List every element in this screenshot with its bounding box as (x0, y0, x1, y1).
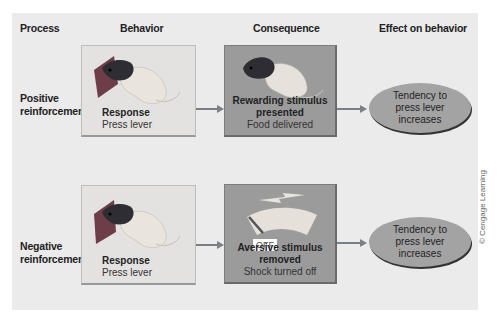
arrow-consequence-to-effect-negative (337, 242, 363, 244)
effect-ellipse-negative: Tendency to press lever increases (369, 217, 471, 267)
consequence-detail: Food delivered (225, 119, 335, 131)
header-consequence: Consequence (253, 22, 320, 34)
behavior-title: Response (102, 107, 195, 119)
behavior-detail: Press lever (102, 119, 195, 131)
behavior-caption-positive: Response Press lever (102, 107, 195, 131)
consequence-box-positive: Rewarding stimulus presented Food delive… (224, 45, 337, 137)
arrow-behavior-to-consequence-negative (196, 244, 220, 246)
consequence-detail: Shock turned off (225, 266, 335, 278)
behavior-detail: Press lever (102, 267, 195, 279)
effect-ellipse-positive: Tendency to press lever increases (369, 83, 471, 133)
copyright-credit: © Cengage Learning (478, 170, 487, 244)
header-behavior: Behavior (120, 22, 163, 34)
consequence-box-negative: OFF Aversive stimulus removed Shock turn… (224, 184, 337, 284)
row-label-positive: Positive reinforcement (20, 92, 80, 118)
rat-pressing-lever-icon (92, 50, 182, 108)
effect-text: Tendency to press lever increases (382, 90, 458, 126)
effect-text: Tendency to press lever increases (382, 224, 458, 260)
behavior-title: Response (102, 255, 195, 267)
behavior-caption-negative: Response Press lever (102, 255, 195, 279)
header-effect: Effect on behavior (379, 22, 467, 34)
header-process: Process (20, 22, 59, 34)
arrow-consequence-to-effect-positive (337, 108, 363, 110)
shock-meter-icon (247, 205, 317, 237)
arrow-behavior-to-consequence-positive (196, 108, 220, 110)
row-label-negative: Negative reinforcement (20, 240, 80, 266)
consequence-caption-positive: Rewarding stimulus presented Food delive… (225, 95, 335, 131)
consequence-title: Rewarding stimulus presented (225, 95, 335, 119)
consequence-title: Aversive stimulus removed (225, 242, 335, 266)
behavior-box-positive: Response Press lever (81, 45, 196, 137)
lightning-bolt-icon (259, 191, 305, 205)
behavior-box-negative: Response Press lever (81, 185, 196, 285)
rat-pressing-lever-icon (92, 192, 182, 252)
consequence-caption-negative: Aversive stimulus removed Shock turned o… (225, 242, 335, 278)
